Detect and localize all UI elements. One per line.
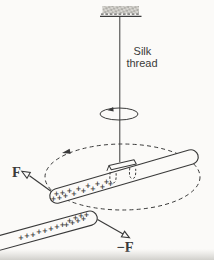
force-label-F: F [12,164,21,180]
page-shadow [0,249,214,260]
ceiling-mount-hatch [103,6,140,14]
physics-figure: Silk thread +++++++++++++++ +++ [0,0,214,260]
charge-symbol: + [108,180,114,188]
charge-symbol: + [84,211,90,219]
paper-background [0,0,214,260]
